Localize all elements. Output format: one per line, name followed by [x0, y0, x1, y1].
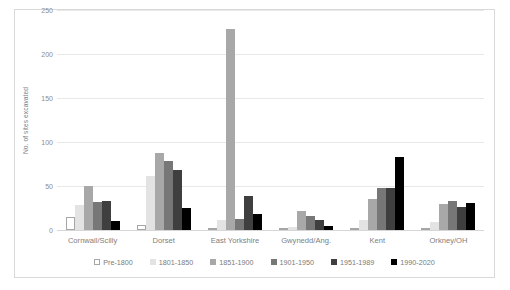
legend-item[interactable]: 1851-1900	[210, 258, 253, 267]
bar-group	[128, 10, 199, 230]
bar	[155, 153, 164, 230]
x-axis-label: Kent	[342, 232, 413, 250]
x-axis-label: Orkney/OH	[413, 232, 484, 250]
chart-container: No. of sites excavated 050100150200250 C…	[14, 9, 495, 278]
x-axis-label: Dorset	[128, 232, 199, 250]
bar	[448, 201, 457, 230]
bar	[164, 161, 173, 230]
bar	[377, 188, 386, 230]
bar	[324, 226, 333, 230]
plot-wrapper: No. of sites excavated 050100150200250 C…	[15, 10, 494, 277]
bar	[288, 227, 297, 230]
bar	[208, 228, 217, 230]
bar	[244, 196, 253, 230]
legend-item[interactable]: Pre-1800	[94, 258, 133, 267]
legend-swatch-icon	[331, 259, 337, 265]
legend-item[interactable]: 1951-1989	[331, 258, 374, 267]
bar	[315, 220, 324, 230]
bar	[182, 208, 191, 230]
bar	[439, 204, 448, 230]
bar	[146, 176, 155, 230]
y-axis-title-text: No. of sites excavated	[23, 86, 30, 153]
legend-swatch-icon	[391, 259, 397, 265]
bar	[102, 201, 111, 230]
bar-group	[342, 10, 413, 230]
bar	[359, 220, 368, 230]
bar	[226, 29, 235, 230]
y-tick-label: 0	[49, 227, 53, 234]
bar	[430, 222, 439, 230]
bar	[75, 205, 84, 230]
legend-item[interactable]: 1801-1850	[150, 258, 193, 267]
bar	[350, 228, 359, 230]
y-tick-label: 150	[41, 95, 53, 102]
legend-label: 1951-1989	[340, 258, 374, 267]
x-axis-label: Gwynedd/Ang.	[271, 232, 342, 250]
legend-label: 1851-1900	[219, 258, 253, 267]
legend-label: 1901-1950	[280, 258, 314, 267]
y-tick-label: 50	[45, 183, 53, 190]
bar	[93, 202, 102, 230]
bar	[173, 170, 182, 230]
legend-item[interactable]: 1990-2020	[391, 258, 434, 267]
bar	[279, 228, 288, 230]
bar	[395, 157, 404, 230]
bar	[466, 203, 475, 230]
legend-label: 1990-2020	[400, 258, 434, 267]
y-tick-label: 250	[41, 7, 53, 14]
bar-group	[57, 10, 128, 230]
gridline-0	[57, 230, 484, 231]
legend-swatch-icon	[210, 259, 216, 265]
bar-group	[199, 10, 270, 230]
bar	[457, 207, 466, 230]
plot-area	[57, 10, 484, 230]
legend-swatch-icon	[150, 259, 156, 265]
bar	[253, 214, 262, 230]
bar	[84, 186, 93, 230]
x-axis-label: East Yorkshire	[199, 232, 270, 250]
bar	[297, 211, 306, 230]
bar	[235, 219, 244, 230]
x-axis-category-labels: Cornwall/ScillyDorsetEast YorkshireGwyne…	[57, 232, 484, 250]
x-axis-label: Cornwall/Scilly	[57, 232, 128, 250]
bar	[421, 228, 430, 230]
bar	[111, 221, 120, 230]
y-tick-label: 100	[41, 139, 53, 146]
bar-group	[271, 10, 342, 230]
y-axis-title: No. of sites excavated	[19, 10, 33, 230]
bar	[217, 220, 226, 230]
bar	[137, 225, 146, 230]
y-axis-tick-labels: 050100150200250	[33, 10, 55, 230]
legend-swatch-icon	[271, 259, 277, 265]
bar-groups	[57, 10, 484, 230]
bar	[66, 217, 75, 230]
y-tick-label: 200	[41, 51, 53, 58]
bar	[306, 216, 315, 230]
bar	[386, 188, 395, 230]
bar-group	[413, 10, 484, 230]
legend-label: 1801-1850	[159, 258, 193, 267]
chart-legend: Pre-18001801-18501851-19001901-19501951-…	[45, 254, 484, 270]
legend-swatch-icon	[94, 259, 100, 265]
legend-item[interactable]: 1901-1950	[271, 258, 314, 267]
bar	[368, 199, 377, 230]
legend-label: Pre-1800	[103, 258, 133, 267]
